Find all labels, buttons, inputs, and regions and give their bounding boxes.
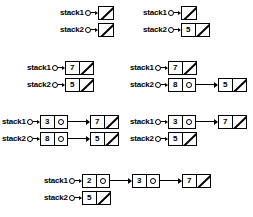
list-node: 5	[82, 191, 111, 205]
stack-row: stack1237	[44, 172, 211, 189]
node-next-pointer	[96, 175, 109, 187]
stack-label: stack2	[130, 81, 155, 89]
stack-row: stack25	[44, 189, 211, 206]
pointer-link	[196, 78, 218, 91]
node-next-pointer	[54, 133, 67, 145]
node-value: 5	[169, 133, 182, 145]
node-value: 8	[169, 79, 182, 91]
stack-state-group: stack17stack25	[27, 59, 94, 93]
null-slash-icon	[104, 133, 118, 145]
list-node: 5	[65, 78, 94, 92]
pointer-link	[68, 132, 90, 145]
list-node: 7	[218, 115, 247, 129]
null-slash-icon	[182, 7, 196, 19]
null-slash-icon	[232, 79, 246, 91]
pointer-shaft	[68, 121, 86, 123]
pointer-origin	[69, 191, 82, 204]
null-pointer-box	[181, 6, 197, 20]
stack-label: stack1	[143, 9, 168, 17]
null-slash-icon	[182, 133, 196, 145]
stack-state-group: stack137stack285	[2, 113, 119, 147]
pointer-link	[196, 115, 218, 128]
node-value: 5	[219, 79, 232, 91]
stack-label: stack2	[27, 81, 52, 89]
pointer-ring-icon	[186, 82, 192, 88]
pointer-ring-icon	[58, 136, 64, 142]
stack-state-group: stack137stack25	[130, 113, 247, 147]
node-next-pointer	[182, 79, 195, 91]
node-value: 3	[169, 116, 182, 128]
null-pointer-box	[98, 23, 114, 37]
stack-row: stack17	[130, 59, 247, 76]
list-node: 8	[168, 78, 196, 92]
stack-label: stack2	[130, 135, 155, 143]
pointer-origin	[155, 61, 168, 74]
pointer-origin	[27, 132, 40, 145]
linked-list-stack-diagram: stack1stack2stack1stack25stack17stack25s…	[0, 0, 253, 217]
list-node: 8	[40, 132, 68, 146]
pointer-shaft	[110, 180, 128, 182]
stack-state-group: stack17stack285	[130, 59, 247, 93]
pointer-origin	[69, 174, 82, 187]
stack-label: stack1	[60, 9, 85, 17]
pointer-ring-icon	[58, 119, 64, 125]
node-value: 7	[219, 116, 232, 128]
stack-row: stack25	[27, 76, 94, 93]
list-node: 2	[82, 174, 110, 188]
pointer-origin	[52, 61, 65, 74]
pointer-shaft	[68, 138, 86, 140]
pointer-shaft	[196, 121, 214, 123]
null-slash-icon	[79, 79, 93, 91]
stack-label: stack2	[44, 194, 69, 202]
node-next-pointer	[54, 116, 67, 128]
list-node: 5	[218, 78, 247, 92]
stack-label: stack1	[130, 118, 155, 126]
list-node: 3	[132, 174, 160, 188]
node-value: 5	[66, 79, 79, 91]
stack-label: stack2	[143, 26, 168, 34]
node-value: 5	[83, 192, 96, 204]
pointer-ring-icon	[150, 178, 156, 184]
stack-row: stack25	[143, 21, 210, 38]
node-value: 3	[41, 116, 54, 128]
null-slash-icon	[232, 116, 246, 128]
pointer-origin	[155, 115, 168, 128]
pointer-shaft	[196, 84, 214, 86]
node-value: 5	[182, 24, 195, 36]
pointer-origin	[155, 132, 168, 145]
stack-label: stack2	[60, 26, 85, 34]
stack-row: stack1	[60, 4, 114, 21]
pointer-origin	[168, 6, 181, 19]
node-value: 5	[91, 133, 104, 145]
stack-state-group: stack1stack2	[60, 4, 114, 38]
list-node: 5	[168, 132, 197, 146]
stack-row: stack285	[2, 130, 119, 147]
node-next-pointer	[182, 116, 195, 128]
pointer-origin	[168, 23, 181, 36]
list-node: 3	[168, 115, 196, 129]
list-node: 5	[90, 132, 119, 146]
stack-row: stack137	[2, 113, 119, 130]
node-value: 2	[83, 175, 96, 187]
stack-row: stack137	[130, 113, 247, 130]
stack-row: stack2	[60, 21, 114, 38]
stack-row: stack17	[27, 59, 94, 76]
pointer-link	[110, 174, 132, 187]
list-node: 7	[168, 61, 197, 75]
pointer-ring-icon	[186, 119, 192, 125]
stack-row: stack285	[130, 76, 247, 93]
null-slash-icon	[104, 116, 118, 128]
node-value: 3	[133, 175, 146, 187]
null-slash-icon	[99, 7, 113, 19]
list-node: 7	[65, 61, 94, 75]
stack-label: stack2	[2, 135, 27, 143]
node-next-pointer	[146, 175, 159, 187]
pointer-origin	[85, 6, 98, 19]
list-node: 3	[40, 115, 68, 129]
pointer-link	[68, 115, 90, 128]
node-value: 8	[41, 133, 54, 145]
pointer-shaft	[160, 180, 178, 182]
node-value: 7	[169, 62, 182, 74]
pointer-ring-icon	[100, 178, 106, 184]
list-node: 7	[90, 115, 119, 129]
